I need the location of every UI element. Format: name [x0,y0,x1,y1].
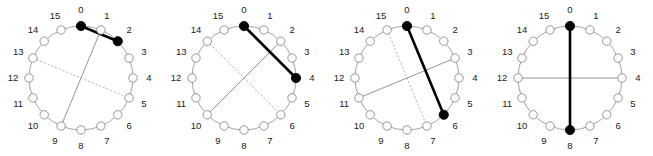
rotation-step-2-node-4[interactable] [291,73,300,82]
rotation-step-2-node-11[interactable] [192,94,200,102]
rotation-step-1-node-label-8: 8 [78,140,83,151]
rotation-step-4-node-8[interactable] [565,125,574,134]
rotation-step-1-node-9[interactable] [57,122,65,130]
rotation-step-4-node-label-2: 2 [615,24,620,35]
rotation-step-2-node-15[interactable] [220,26,228,34]
rotation-step-4-node-6[interactable] [603,111,611,119]
rotation-step-2-node-9[interactable] [220,122,228,130]
rotation-step-1-node-6[interactable] [114,111,122,119]
rotation-step-2-node-6[interactable] [277,111,285,119]
rotation-step-4-node-label-10: 10 [517,120,528,131]
rotation-step-2-node-label-8: 8 [241,140,246,151]
rotation-step-4-node-13[interactable] [518,54,526,62]
rotation-step-1-node-10[interactable] [40,111,48,119]
rotation-step-3-node-9[interactable] [383,122,391,130]
rotation-step-2-node-10[interactable] [203,111,211,119]
rotation-step-1-node-7[interactable] [97,122,105,130]
rotation-step-4-node-label-9: 9 [541,135,546,146]
rotation-step-3-node-label-15: 15 [376,10,387,21]
rotation-step-1-node-label-11: 11 [13,98,23,109]
rotation-step-2-node-8[interactable] [240,126,248,134]
rotation-step-1-node-label-2: 2 [126,24,131,35]
rotation-step-4-node-label-13: 13 [502,46,513,57]
rotation-step-3-node-label-0: 0 [404,4,409,15]
rotation-step-1-node-15[interactable] [57,26,65,34]
rotation-step-1-node-label-14: 14 [28,24,39,35]
rotation-step-4-node-11[interactable] [518,94,526,102]
rotation-step-2-node-label-12: 12 [171,72,182,83]
rotation-step-2-node-label-4: 4 [309,72,314,83]
rotation-step-2-node-label-5: 5 [304,98,309,109]
rotation-step-1-node-11[interactable] [29,94,37,102]
rotation-step-4-node-12[interactable] [514,74,522,82]
rotation-step-3-node-10[interactable] [366,111,374,119]
rotation-step-1-node-13[interactable] [29,54,37,62]
rotation-step-4-node-label-4: 4 [635,72,640,83]
rotation-step-4-node-1[interactable] [586,26,594,34]
rotation-step-1-node-label-0: 0 [78,4,83,15]
rotation-step-3-node-6[interactable] [439,110,448,119]
rotation-step-4-node-5[interactable] [614,94,622,102]
rotation-step-3-secondary-chord [359,58,455,98]
rotation-step-3-node-7[interactable] [423,122,431,130]
rotation-step-2-node-label-6: 6 [289,120,294,131]
rotation-step-3-node-3[interactable] [451,54,459,62]
rotation-step-3-node-label-12: 12 [334,72,345,83]
rotation-step-4-node-7[interactable] [586,122,594,130]
rotation-step-3-node-15[interactable] [383,26,391,34]
rotation-step-4-node-9[interactable] [546,122,554,130]
rotation-step-3-node-5[interactable] [451,94,459,102]
rotation-step-4-node-3[interactable] [614,54,622,62]
rotation-step-1-node-4[interactable] [129,74,137,82]
rotation-step-1-node-1[interactable] [97,26,105,34]
rotation-step-3-node-11[interactable] [355,94,363,102]
rotation-step-4-node-2[interactable] [603,37,611,45]
rotation-step-4-node-label-7: 7 [593,135,598,146]
rotation-step-1-node-12[interactable] [25,74,33,82]
rotation-step-2-node-14[interactable] [203,37,211,45]
rotation-step-2-node-13[interactable] [192,54,200,62]
rotation-step-2-node-0[interactable] [239,21,248,30]
rotation-step-4-node-15[interactable] [546,26,554,34]
rotation-step-3-node-13[interactable] [355,54,363,62]
rotation-step-3-node-label-1: 1 [430,10,435,21]
rotation-step-1-node-5[interactable] [125,94,133,102]
rotation-step-1-node-14[interactable] [40,37,48,45]
rotation-step-4-svg: 0123456789101112131415 [489,0,652,156]
rotation-step-1-node-label-5: 5 [141,98,146,109]
rotation-step-2-node-1[interactable] [260,26,268,34]
rotation-step-1-node-8[interactable] [77,126,85,134]
rotation-step-3-node-14[interactable] [366,37,374,45]
rotation-step-2-node-2[interactable] [277,37,285,45]
rotation-step-2-node-5[interactable] [288,94,296,102]
rotation-step-4-node-0[interactable] [565,21,574,30]
rotation-step-3-node-2[interactable] [440,37,448,45]
rotation-step-4-node-label-8: 8 [567,140,572,151]
rotation-step-2-node-12[interactable] [188,74,196,82]
rotation-step-3-panel: 0123456789101112131415 [326,0,489,156]
rotation-step-4-node-14[interactable] [529,37,537,45]
rotation-step-4-node-label-1: 1 [593,10,598,21]
rotation-step-2-node-3[interactable] [288,54,296,62]
rotation-step-1-node-0[interactable] [76,21,85,30]
rotation-step-3-node-12[interactable] [351,74,359,82]
rotation-step-2-node-label-14: 14 [191,24,202,35]
rotation-step-2-node-label-13: 13 [176,46,187,57]
rotation-step-3-node-label-9: 9 [378,135,383,146]
rotation-step-4-panel: 0123456789101112131415 [489,0,652,156]
rotation-step-4-node-10[interactable] [529,111,537,119]
rotation-step-1-node-2[interactable] [113,37,122,46]
rotation-step-2-node-7[interactable] [260,122,268,130]
rotation-step-1-node-label-1: 1 [104,10,109,21]
rotation-step-3-node-8[interactable] [403,126,411,134]
rotation-step-2-node-label-1: 1 [267,10,272,21]
rotation-step-1-node-label-12: 12 [8,72,19,83]
rotation-step-3-node-1[interactable] [423,26,431,34]
rotation-step-1-panel: 0123456789101112131415 [0,0,163,156]
rotation-step-3-node-0[interactable] [402,21,411,30]
rotation-step-4-node-4[interactable] [618,74,626,82]
rotation-step-3-node-4[interactable] [455,74,463,82]
rotation-step-1-node-3[interactable] [125,54,133,62]
rotation-step-2-node-label-9: 9 [215,135,220,146]
rotation-step-4-node-label-12: 12 [497,72,508,83]
